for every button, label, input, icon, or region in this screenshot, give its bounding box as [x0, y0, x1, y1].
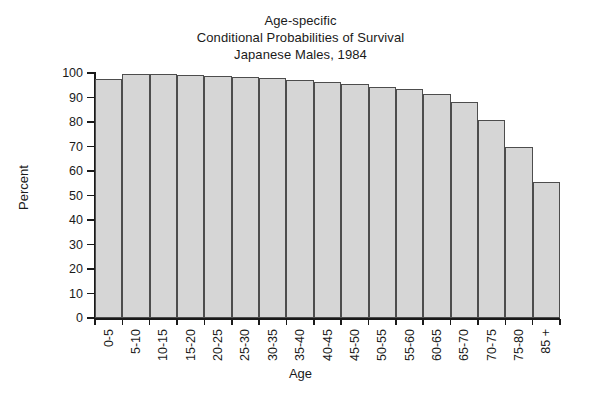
chart-title-line-3: Japanese Males, 1984: [0, 46, 601, 63]
y-axis-tick: [87, 219, 94, 221]
x-axis-tick: [395, 319, 397, 325]
y-axis-tick: [87, 268, 94, 270]
bar: [533, 182, 560, 318]
bar: [204, 76, 231, 318]
y-axis-tick: [87, 72, 94, 74]
x-axis-tick-label: 0-5: [102, 329, 115, 347]
x-axis-tick: [532, 319, 534, 325]
y-axis-tick-label: 20: [47, 263, 83, 275]
y-axis-tick-label-wrap: 0: [47, 312, 83, 324]
bar: [396, 89, 423, 318]
y-axis-tick-label: 40: [47, 214, 83, 226]
x-axis-tick: [340, 319, 342, 325]
bar: [505, 147, 532, 319]
bar: [286, 80, 313, 318]
y-axis-tick-label-wrap: 50: [47, 190, 83, 202]
x-axis-tick-label: 70-75: [485, 329, 498, 361]
x-axis-tick-label: 50-55: [376, 329, 389, 361]
y-axis-tick-label: 30: [47, 239, 83, 251]
y-axis-tick-label-wrap: 80: [47, 116, 83, 128]
x-axis-tick: [368, 319, 370, 325]
x-axis-tick-label: 20-25: [212, 329, 225, 361]
x-axis-tick: [313, 319, 315, 325]
y-axis-tick-label: 50: [47, 190, 83, 202]
x-axis-tick: [231, 319, 233, 325]
x-axis-tick: [204, 319, 206, 325]
chart-figure: Age-specific Conditional Probabilities o…: [0, 0, 601, 396]
y-axis-tick-label: 60: [47, 165, 83, 177]
y-axis-tick-label-wrap: 60: [47, 165, 83, 177]
x-axis-tick-label: 35-40: [294, 329, 307, 361]
y-axis-tick-label-wrap: 100: [47, 67, 83, 79]
bar: [177, 75, 204, 318]
y-axis-tick: [87, 317, 94, 319]
x-axis-tick-label: 45-50: [348, 329, 361, 361]
y-axis-tick-label: 10: [47, 288, 83, 300]
y-axis-tick: [87, 244, 94, 246]
bar: [341, 84, 368, 318]
y-axis-tick: [87, 97, 94, 99]
bar: [122, 74, 149, 319]
x-axis-tick: [176, 319, 178, 325]
bar: [259, 78, 286, 318]
chart-title-line-1: Age-specific: [0, 12, 601, 29]
chart-title: Age-specific Conditional Probabilities o…: [0, 12, 601, 63]
y-axis-tick-label: 90: [47, 92, 83, 104]
x-axis-tick-label: 30-35: [266, 329, 279, 361]
y-axis-tick-label-wrap: 70: [47, 141, 83, 153]
bar: [423, 94, 450, 318]
bar: [451, 102, 478, 318]
y-axis-tick-label: 70: [47, 141, 83, 153]
y-axis-tick-label: 0: [47, 312, 83, 324]
x-axis-tick: [122, 319, 124, 325]
x-axis-tick-label: 40-45: [321, 329, 334, 361]
x-axis-tick: [149, 319, 151, 325]
x-axis-tick-label: 75-80: [512, 329, 525, 361]
x-axis-tick-label: 60-65: [430, 329, 443, 361]
y-axis-tick-label-wrap: 40: [47, 214, 83, 226]
bar: [232, 77, 259, 318]
y-axis-tick: [87, 195, 94, 197]
chart-title-line-2: Conditional Probabilities of Survival: [0, 29, 601, 46]
x-axis-tick-label: 65-70: [458, 329, 471, 361]
x-axis-tick-label: 5-10: [130, 329, 143, 354]
bar: [314, 82, 341, 318]
y-axis-title: Percent: [16, 143, 31, 233]
y-axis-tick: [87, 170, 94, 172]
y-axis-tick-label: 80: [47, 116, 83, 128]
plot-area: [95, 73, 560, 318]
y-axis-tick-label-wrap: 90: [47, 92, 83, 104]
y-axis-tick-label-wrap: 10: [47, 288, 83, 300]
x-axis-tick-label: 10-15: [157, 329, 170, 361]
x-axis-tick-label: 15-20: [184, 329, 197, 361]
x-axis-tick: [422, 319, 424, 325]
x-axis-tick: [450, 319, 452, 325]
x-axis-tick: [505, 319, 507, 325]
bar: [369, 87, 396, 318]
x-axis-tick-label: 25-30: [239, 329, 252, 361]
x-axis-tick: [559, 319, 561, 325]
x-axis-line: [94, 318, 560, 320]
y-axis-tick: [87, 146, 94, 148]
y-axis-tick-label-wrap: 30: [47, 239, 83, 251]
y-axis-tick-label: 100: [47, 67, 83, 79]
x-axis-tick: [94, 319, 96, 325]
y-axis-tick: [87, 293, 94, 295]
x-axis-tick: [477, 319, 479, 325]
y-axis-tick: [87, 121, 94, 123]
x-axis-tick-label: 85 +: [540, 329, 553, 354]
x-axis-tick: [286, 319, 288, 325]
x-axis-tick: [258, 319, 260, 325]
x-axis-title: Age: [0, 366, 601, 381]
bar: [478, 120, 505, 318]
y-axis-tick-label-wrap: 20: [47, 263, 83, 275]
bar: [150, 74, 177, 319]
x-axis-tick-label: 55-60: [403, 329, 416, 361]
bar: [95, 79, 122, 318]
